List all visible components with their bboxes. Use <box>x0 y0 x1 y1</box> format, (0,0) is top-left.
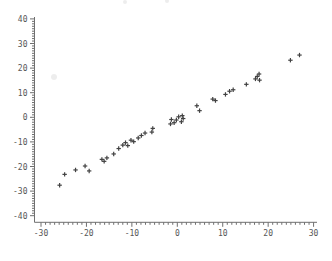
y-tick-label: 40 <box>18 15 28 24</box>
y-tick-label: 10 <box>18 89 28 98</box>
scan-smudge <box>51 74 57 80</box>
x-tick-label: 30 <box>309 229 319 238</box>
scatter-chart: -30-20-100102030403020100-10-20-30-40 <box>0 0 332 261</box>
x-tick-label: -30 <box>34 229 49 238</box>
y-tick-label: -20 <box>13 163 28 172</box>
y-tick-label: 0 <box>23 113 28 122</box>
scan-smudge <box>123 0 127 4</box>
x-tick-label: 0 <box>175 229 180 238</box>
y-tick-label: -30 <box>13 187 28 196</box>
y-tick-label: 20 <box>18 64 28 73</box>
x-tick-label: -10 <box>125 229 140 238</box>
x-tick-label: 10 <box>218 229 228 238</box>
scatter-plot-page: -30-20-100102030403020100-10-20-30-40 <box>0 0 332 261</box>
y-tick-label: 30 <box>18 40 28 49</box>
x-tick-label: 20 <box>263 229 273 238</box>
y-tick-label: -40 <box>13 212 28 221</box>
x-tick-label: -20 <box>79 229 94 238</box>
y-tick-label: -10 <box>13 138 28 147</box>
